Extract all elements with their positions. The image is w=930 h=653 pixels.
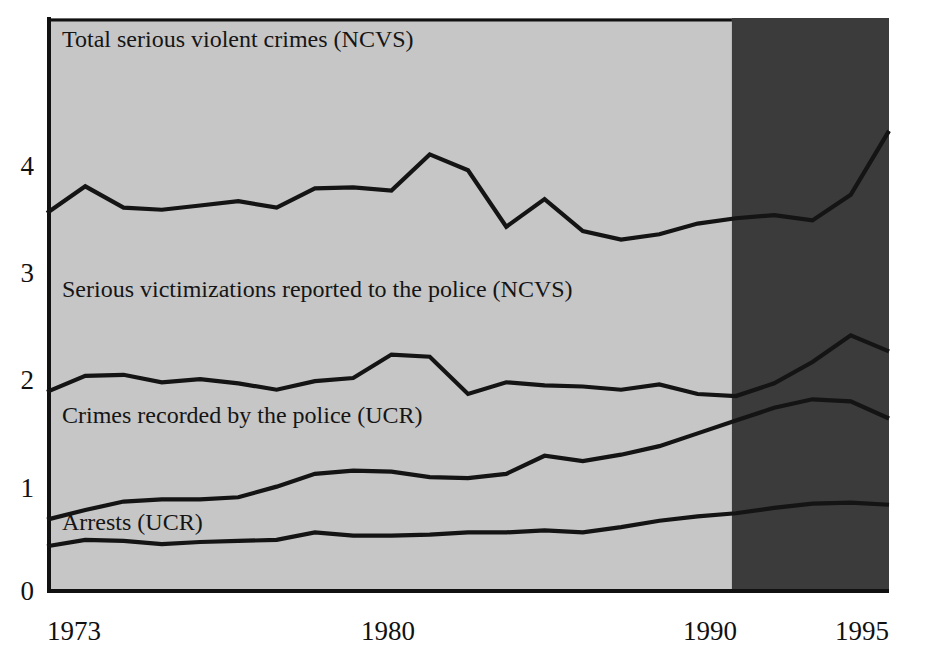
series-label-total-serious-violent-crimes: Total serious violent crimes (NCVS) [62,26,414,52]
x-tick-label-1973: 1973 [47,616,101,646]
crime-funnel-chart: 4 3 2 1 0 1973 1980 1990 1995 Total seri… [0,0,930,653]
y-tick-label-1: 1 [21,473,35,503]
chart-canvas: 4 3 2 1 0 1973 1980 1990 1995 Total seri… [0,0,930,653]
y-tick-label-2: 2 [21,365,35,395]
y-tick-label-4: 4 [21,151,35,181]
x-tick-label-1995: 1995 [835,616,889,646]
x-tick-label-1990: 1990 [683,616,737,646]
series-label-crimes-recorded-by-police: Crimes recorded by the police (UCR) [62,402,423,428]
y-tick-label-3: 3 [21,258,35,288]
series-label-arrests: Arrests (UCR) [62,509,203,535]
x-tick-label-1980: 1980 [361,616,415,646]
series-label-serious-victimizations-reported: Serious victimizations reported to the p… [62,276,573,302]
y-tick-label-0: 0 [21,576,35,606]
